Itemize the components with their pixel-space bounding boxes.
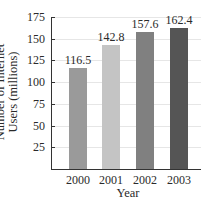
x-tick-label: 2003	[167, 173, 191, 188]
y-tick-label: 100	[27, 76, 45, 88]
y-tick	[51, 147, 55, 148]
y-tick-label: 75	[33, 98, 45, 110]
y-tick	[51, 39, 55, 40]
bar-2001	[102, 45, 120, 169]
y-axis-label-line-2: Users (millions)	[7, 32, 20, 152]
y-tick-label: 50	[33, 120, 45, 132]
y-tick	[51, 82, 55, 83]
bar-chart: 255075100125150175 116.52000142.82001157…	[0, 0, 210, 206]
value-label: 157.6	[132, 17, 159, 32]
value-label: 142.8	[98, 30, 125, 45]
y-tick-label: 175	[27, 11, 45, 23]
y-tick	[51, 17, 55, 18]
bar-2003	[170, 28, 188, 169]
y-tick	[51, 104, 55, 105]
x-axis	[51, 169, 201, 170]
y-tick	[51, 60, 55, 61]
y-tick-label: 150	[27, 33, 45, 45]
x-tick-label: 2000	[66, 173, 90, 188]
bar-2002	[136, 32, 154, 169]
value-label: 162.4	[166, 13, 193, 28]
bar-2000	[69, 68, 87, 169]
x-axis-label: Year	[116, 186, 139, 201]
y-axis-label: Number of Internet Users (millions)	[0, 32, 20, 152]
y-tick-label: 25	[33, 141, 45, 153]
value-label: 116.5	[65, 53, 92, 68]
y-tick-label: 125	[27, 54, 45, 66]
y-tick	[51, 126, 55, 127]
